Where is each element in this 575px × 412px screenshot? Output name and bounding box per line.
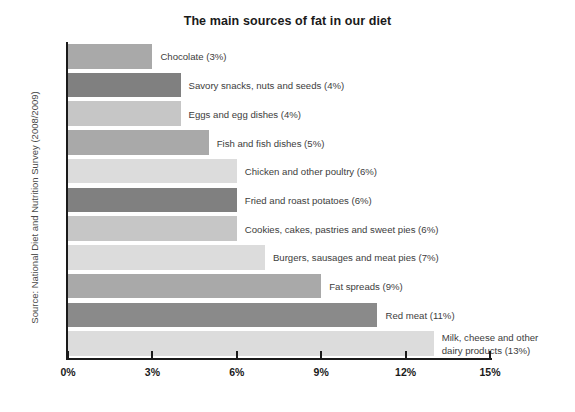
x-axis-tick [236, 351, 238, 360]
bar[interactable] [68, 159, 237, 184]
bar-row: Chocolate (3%) [68, 42, 490, 71]
x-axis-tick-label: 3% [145, 366, 160, 378]
x-axis-tick [489, 351, 491, 360]
bar-row: Cookies, cakes, pastries and sweet pies … [68, 214, 490, 243]
bar-row: Savory snacks, nuts and seeds (4%) [68, 71, 490, 100]
bar-label: Savory snacks, nuts and seeds (4%) [189, 79, 345, 92]
bar[interactable] [68, 44, 152, 69]
chart-title: The main sources of fat in our diet [0, 14, 575, 28]
bar-label: Burgers, sausages and meat pies (7%) [273, 251, 439, 264]
bar-label: Red meat (11%) [385, 308, 454, 321]
bar[interactable] [68, 188, 237, 213]
bar[interactable] [68, 73, 181, 98]
plot-area: Chocolate (3%)Savory snacks, nuts and se… [68, 42, 490, 358]
bar[interactable] [68, 274, 321, 299]
bar[interactable] [68, 331, 434, 356]
bar-label: Chicken and other poultry (6%) [245, 165, 377, 178]
bar-label: Fish and fish dishes (5%) [217, 136, 325, 149]
bar-row: Eggs and egg dishes (4%) [68, 99, 490, 128]
bar-row: Fat spreads (9%) [68, 272, 490, 301]
bar-chart-figure: The main sources of fat in our diet Sour… [0, 0, 575, 412]
bar-row: Burgers, sausages and meat pies (7%) [68, 243, 490, 272]
bar-label: Cookies, cakes, pastries and sweet pies … [245, 222, 439, 235]
bar[interactable] [68, 303, 377, 328]
bar[interactable] [68, 245, 265, 270]
bar-row: Milk, cheese and other dairy products (1… [68, 329, 490, 358]
bar-label: Fat spreads (9%) [329, 280, 403, 293]
x-axis-tick [320, 351, 322, 360]
bar-label: Chocolate (3%) [160, 50, 226, 63]
bar[interactable] [68, 101, 181, 126]
source-caption: Source: National Diet and Nutrition Surv… [29, 88, 40, 328]
x-axis-tick [151, 351, 153, 360]
bar[interactable] [68, 130, 209, 155]
bar-row: Fried and roast potatoes (6%) [68, 186, 490, 215]
bar[interactable] [68, 216, 237, 241]
bar-row: Fish and fish dishes (5%) [68, 128, 490, 157]
bar-row: Chicken and other poultry (6%) [68, 157, 490, 186]
x-axis-tick [405, 351, 407, 360]
x-axis-tick-label: 0% [60, 366, 75, 378]
bar-label: Milk, cheese and other dairy products (1… [442, 330, 554, 357]
x-axis-tick-label: 15% [479, 366, 500, 378]
bar-label: Fried and roast potatoes (6%) [245, 193, 372, 206]
bar-label: Eggs and egg dishes (4%) [189, 107, 302, 120]
x-axis-tick [67, 351, 69, 360]
bar-row: Red meat (11%) [68, 301, 490, 330]
x-axis-tick-label: 6% [229, 366, 244, 378]
x-axis-tick-label: 9% [314, 366, 329, 378]
x-axis-tick-label: 12% [395, 366, 416, 378]
x-axis-line [66, 358, 492, 360]
